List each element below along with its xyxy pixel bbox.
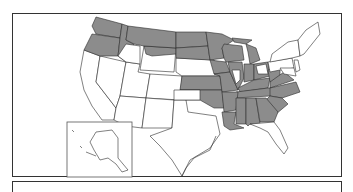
us-map xyxy=(0,0,353,192)
state-in[interactable] xyxy=(244,64,254,82)
state-nd[interactable] xyxy=(176,32,208,48)
state-fl[interactable] xyxy=(250,122,288,154)
state-wi[interactable] xyxy=(222,44,244,62)
state-ks[interactable] xyxy=(180,76,222,90)
state-oh-unshaded[interactable] xyxy=(256,64,268,74)
state-new-england[interactable] xyxy=(298,22,320,56)
state-ny[interactable] xyxy=(270,40,300,62)
legend-frame xyxy=(12,181,342,192)
state-sd[interactable] xyxy=(176,46,210,60)
state-ar[interactable] xyxy=(222,92,238,112)
state-ms[interactable] xyxy=(236,98,246,124)
state-nm[interactable] xyxy=(142,98,174,128)
state-ok-west[interactable] xyxy=(174,90,200,100)
state-nj[interactable] xyxy=(294,60,300,72)
